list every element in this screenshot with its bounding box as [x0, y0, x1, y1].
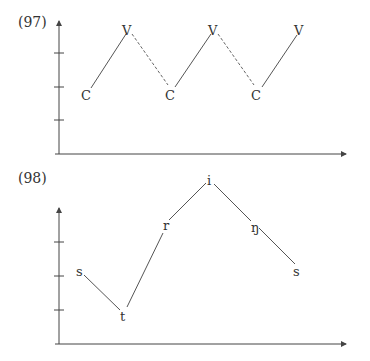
point-label: ŋ [251, 220, 259, 235]
segment-solid [84, 275, 120, 310]
segment-solid [262, 35, 297, 87]
segment-solid [259, 228, 295, 264]
segment-solid [91, 34, 126, 88]
segment-solid [214, 184, 251, 221]
segment-solid [127, 233, 163, 307]
segment-dashed [132, 34, 168, 85]
point-label: r [163, 218, 170, 233]
point-label: C [165, 88, 175, 103]
point-label: s [293, 264, 300, 279]
point-label: i [207, 173, 211, 188]
point-label: V [121, 23, 132, 38]
sonority-diagram-98: s t r i ŋ s [0, 170, 370, 361]
figure-97: (97) C V C V C V [0, 0, 370, 170]
sonority-diagram-97: C V C V C V [0, 0, 370, 170]
point-label: V [293, 23, 304, 38]
point-label: t [120, 309, 126, 324]
segment-solid [169, 183, 206, 220]
point-label: s [76, 264, 83, 279]
point-label: C [251, 88, 261, 103]
segment-solid [175, 34, 211, 87]
segment-dashed [218, 34, 254, 85]
point-label: C [81, 88, 91, 103]
point-label: V [207, 23, 218, 38]
figure-98: (98) s t r i ŋ s [0, 170, 370, 361]
